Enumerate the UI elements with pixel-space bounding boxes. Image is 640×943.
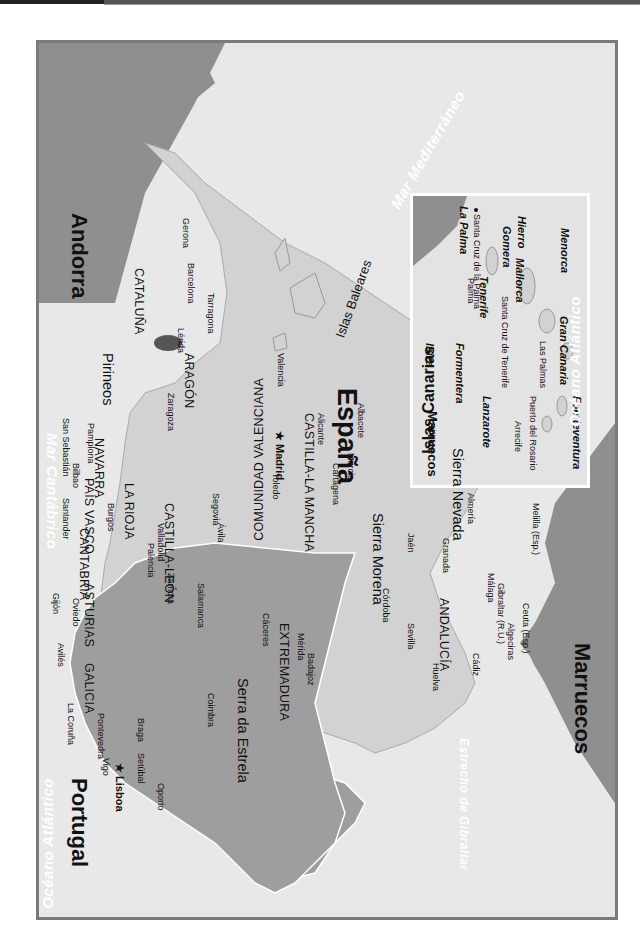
region-castilla-la-mancha: CASTILLA-LA MANCHA — [303, 413, 316, 552]
city-segovia: Segovia — [211, 493, 220, 526]
mountain-pirineos: Pirineos — [101, 353, 116, 405]
city-san-sebastian: San Sebastián — [61, 418, 70, 477]
city-melilla: Melilla (Esp.) — [531, 503, 540, 555]
city-jaen: Jaén — [406, 533, 415, 553]
city-tarragona: Tarragona — [206, 293, 215, 334]
city-albacete: Albacete — [356, 403, 365, 438]
top-bar-line — [104, 0, 640, 5]
region-galicia: GALICIA — [83, 663, 96, 714]
sea-label-inset: Océano Atlántico — [567, 296, 582, 427]
city-algeciras: Algeciras — [506, 623, 515, 660]
city-malaga: Málaga — [486, 573, 495, 603]
city-puerto-del-rosario: Puerto del Rosario — [528, 396, 537, 471]
inset-marruecos: Marruecos — [426, 411, 439, 477]
city-almeria: Almería — [466, 493, 475, 524]
city-santa-cruz-de-tenerife: Santa Cruz de Tenerife — [500, 296, 509, 388]
island-formentera: Formentera — [454, 343, 465, 404]
island-hierro: Hierro — [516, 216, 527, 248]
city-palma: Palma — [466, 278, 475, 304]
city-la-coruna: La Coruña — [66, 703, 75, 745]
city-valencia: Valencia — [276, 353, 285, 387]
island-gomera: Gomera — [501, 226, 512, 268]
city-sevilla: Sevilla — [406, 623, 415, 650]
city-gibraltar: Gibraltar (R.U.) — [496, 583, 505, 644]
city-coimbra: Coimbra — [206, 693, 215, 727]
region-extremadura: EXTREMADURA — [278, 623, 291, 721]
city-oporto: Oporto — [156, 783, 165, 811]
sea-mar-cantabrico: Mar Cantábrico — [45, 433, 60, 549]
city-alicante: Alicante — [316, 413, 325, 445]
city-valladolid: Valladolid — [156, 523, 165, 561]
city-murcia: Murcia — [346, 453, 355, 480]
mountain-sierra-nevada: Sierra Nevada — [451, 448, 466, 541]
city-zamora: Zamora — [166, 573, 175, 604]
label-portugal: Portugal — [68, 778, 90, 867]
city-cartagena: Cartagena — [331, 463, 340, 505]
city-burgos: Burgos — [106, 503, 115, 532]
city-santander: Santander — [61, 498, 70, 540]
sea-oceano-atlantico: Océano Atlántico — [40, 778, 55, 909]
city-gijon: Gijón — [51, 593, 60, 614]
city-pontevedra: Pontevedra — [96, 713, 105, 759]
label-andorra: Andorra — [68, 213, 90, 299]
island-menorca: Menorca — [559, 228, 570, 273]
mountain-serra-da-estrela: Serra da Estrela — [236, 678, 251, 783]
city-gerona: Gerona — [181, 218, 190, 248]
island-la-palma: La Palma — [458, 206, 469, 254]
region-aragon: ARAGÓN — [183, 353, 196, 408]
city-bilbao: Bilbao — [71, 463, 80, 488]
city-caceres: Cáceres — [261, 613, 270, 647]
city-huelva: Huelva — [431, 663, 440, 691]
city-setubal: Setúbal — [136, 753, 145, 784]
city-toledo: Toledo — [271, 473, 280, 500]
city-oviedo: Oviedo — [71, 598, 80, 627]
city-las-palmas: Las Palmas — [538, 341, 547, 388]
city-barcelona: Barcelona — [186, 263, 195, 304]
city-braga: Braga — [136, 718, 145, 742]
star-icon: ★ — [114, 763, 126, 773]
sea-estrecho-de-gibraltar: Estrecho de Gibraltar — [458, 738, 470, 871]
city-ceuta: Ceuta (Esp.) — [521, 603, 530, 654]
city-palencia: Palencia — [146, 543, 155, 578]
city-arrecife: Arrecife — [513, 421, 522, 452]
city-cordoba: Córdoba — [381, 588, 390, 623]
city-lerida: Lérida — [176, 328, 185, 353]
island-lanzarote: Lanzarote — [481, 396, 492, 448]
star-icon: ★ — [274, 431, 286, 441]
island-ibiza: Ibiza — [424, 343, 435, 367]
city-dot — [474, 208, 478, 212]
region-la-rioja: LA RIOJA — [123, 483, 136, 539]
city-badajoz: Badajoz — [306, 653, 315, 686]
city-granada: Granada — [441, 538, 450, 573]
city-aviles: Avilés — [56, 643, 65, 667]
city-cadiz: Cádiz — [471, 653, 480, 676]
island-mallorca: Mallorca — [514, 258, 525, 303]
city-zaragoza: Zaragoza — [166, 393, 175, 431]
top-bar-dark — [0, 0, 104, 4]
label-marruecos: Marruecos — [571, 643, 593, 754]
city-vigo: Vigo — [101, 758, 110, 776]
city-merida: Mérida — [296, 633, 305, 661]
map-canvas: Islas Canarias La Palma Santa Cruz de la… — [39, 43, 615, 917]
region-comunidad-valenciana: COMUNIDAD VALENCIANA — [253, 378, 266, 541]
map-frame: Islas Canarias La Palma Santa Cruz de la… — [36, 40, 618, 920]
city-salamanca: Salamanca — [196, 583, 205, 628]
region-cataluna: CATALUÑA — [133, 268, 146, 334]
capital-lisboa: ★ Lisboa — [114, 763, 125, 812]
city-avila: Ávila — [216, 523, 225, 543]
island-tenerife: Tenerife — [478, 276, 489, 318]
city-pamplona: Pamplona — [86, 423, 95, 464]
region-andalucia: ANDALUCÍA — [438, 598, 451, 671]
